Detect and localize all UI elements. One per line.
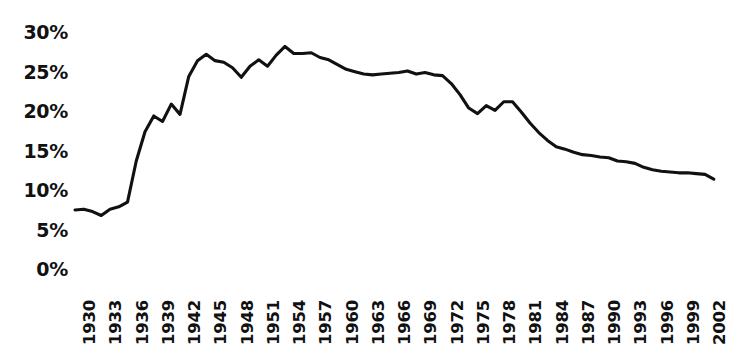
x-tick-label: 1990 bbox=[607, 300, 624, 345]
x-tick-label: 1987 bbox=[581, 300, 598, 345]
x-tick-label: 1954 bbox=[292, 300, 309, 345]
y-tick-label: 15% bbox=[0, 142, 68, 161]
x-tick-label: 1978 bbox=[502, 300, 519, 345]
x-tick-label: 1996 bbox=[660, 300, 677, 345]
x-tick-label: 1960 bbox=[345, 300, 362, 345]
x-tick-label: 1969 bbox=[423, 300, 440, 345]
x-tick-label: 1942 bbox=[187, 300, 204, 345]
y-tick-label: 20% bbox=[0, 102, 68, 121]
line-chart: 30%25%20%15%10%5%0% 19301933193619391942… bbox=[0, 0, 736, 349]
y-tick-label: 0% bbox=[0, 260, 68, 279]
x-tick-label: 1957 bbox=[318, 300, 335, 345]
x-tick-label: 1945 bbox=[213, 300, 230, 345]
x-tick-label: 1948 bbox=[240, 300, 257, 345]
data-series-line bbox=[75, 46, 714, 215]
x-tick-label: 2002 bbox=[712, 300, 729, 345]
x-tick-label: 1981 bbox=[528, 300, 545, 345]
x-tick-label: 1975 bbox=[476, 300, 493, 345]
y-tick-label: 10% bbox=[0, 181, 68, 200]
x-tick-label: 1963 bbox=[371, 300, 388, 345]
y-tick-label: 25% bbox=[0, 63, 68, 82]
x-tick-label: 1993 bbox=[633, 300, 650, 345]
x-tick-label: 1984 bbox=[555, 300, 572, 345]
y-tick-label: 5% bbox=[0, 221, 68, 240]
x-tick-label: 1999 bbox=[686, 300, 703, 345]
x-tick-label: 1939 bbox=[161, 300, 178, 345]
x-tick-label: 1951 bbox=[266, 300, 283, 345]
x-tick-label: 1966 bbox=[397, 300, 414, 345]
chart-plot-area bbox=[0, 0, 736, 349]
x-tick-label: 1936 bbox=[135, 300, 152, 345]
y-tick-label: 30% bbox=[0, 23, 68, 42]
x-tick-label: 1933 bbox=[108, 300, 125, 345]
x-tick-label: 1930 bbox=[82, 300, 99, 345]
x-tick-label: 1972 bbox=[450, 300, 467, 345]
